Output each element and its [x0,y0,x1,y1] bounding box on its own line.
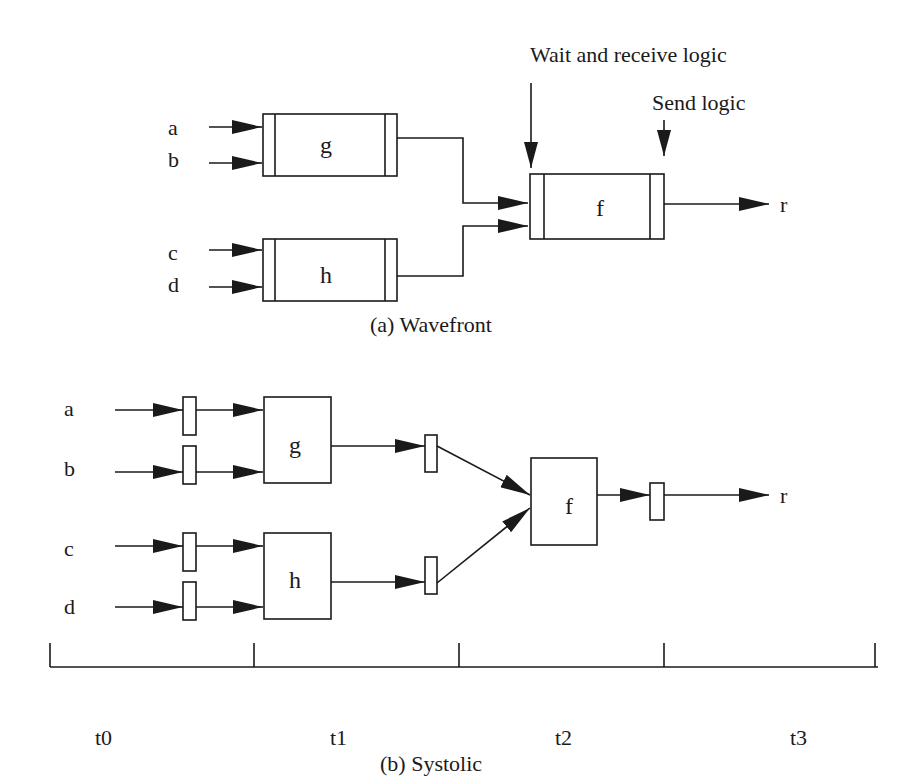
time-step-t2: t2 [555,725,572,750]
input-label-b: b [64,456,75,481]
latch [425,435,437,472]
node-f-systolic: f [531,458,597,545]
node-label-f: f [596,195,604,221]
send-logic-annotation: Send logic [652,90,746,115]
node-h-wavefront: h [263,239,397,301]
edge-h-to-f [437,508,530,583]
caption-systolic: (b) Systolic [380,751,482,776]
diagram-svg: a b c d g h f r [0,0,921,777]
node-label-g: g [320,132,332,158]
input-label-a: a [168,115,178,140]
input-label-c: c [64,536,74,561]
input-row-b [115,446,263,484]
latch [183,446,196,484]
node-g-systolic: g [264,397,331,483]
node-h-systolic: h [264,533,331,619]
input-label-d: d [168,272,179,297]
node-f-wavefront: f [530,174,664,239]
output-label-r: r [780,192,788,217]
time-step-t3: t3 [790,725,807,750]
systolic-diagram: a b c d g h [50,396,878,776]
edge-g-to-f [397,138,528,203]
latch [183,397,196,435]
latch [650,483,664,520]
input-label-a: a [64,396,74,421]
latch [183,533,196,571]
node-label-g: g [289,432,301,458]
wait-receive-annotation: Wait and receive logic [530,42,727,67]
latch [425,557,437,594]
node-label-f: f [565,493,573,519]
timeline: t0 t1 t2 t3 [50,643,878,750]
input-row-c [115,533,263,571]
node-label-h: h [289,567,301,593]
node-label-h: h [320,262,332,288]
time-step-t0: t0 [95,725,112,750]
latch [183,582,196,620]
edge-h-to-f [397,226,528,276]
input-label-d: d [64,594,75,619]
node-g-wavefront: g [263,114,397,176]
diagram-canvas: a b c d g h f r [0,0,921,777]
input-label-b: b [168,147,179,172]
input-row-d [115,582,263,620]
input-label-c: c [168,240,178,265]
output-label-r: r [780,483,788,508]
caption-wavefront: (a) Wavefront [370,312,492,337]
edge-g-to-f [437,446,530,495]
wavefront-diagram: a b c d g h f r [168,42,788,337]
input-row-a [115,397,263,435]
time-step-t1: t1 [330,725,347,750]
